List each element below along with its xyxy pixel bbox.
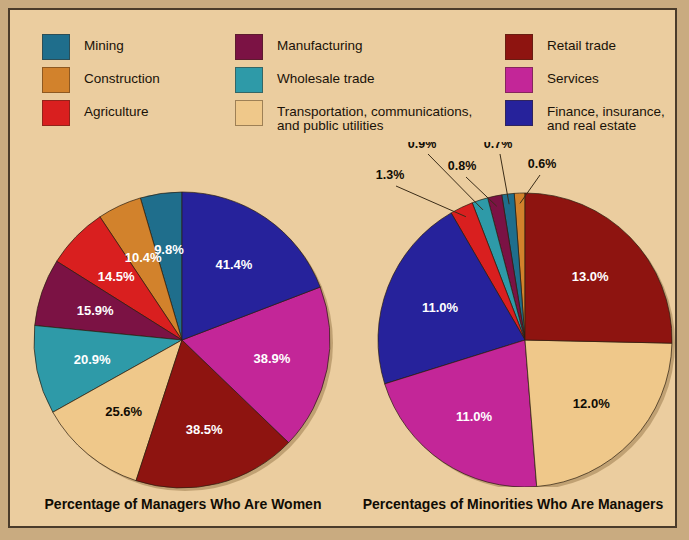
pie-slice-label: 41.4% <box>216 257 253 272</box>
chart-panel: MiningConstructionAgricultureManufacturi… <box>8 8 677 528</box>
chart-title-women: Percentage of Managers Who Are Women <box>18 496 348 512</box>
pie-slice-label: 11.0% <box>456 409 493 424</box>
pie-callout-label: 0.9% <box>408 142 437 151</box>
pie-callout-label: 1.3% <box>376 168 405 182</box>
pie-slice-label: 38.9% <box>253 351 290 366</box>
pie-slice <box>525 340 672 487</box>
pie-chart-minorities: 11.0%11.0%12.0%13.0%0.6%0.7%0.8%0.9%1.3% <box>350 142 689 487</box>
pie-callout-label: 0.6% <box>528 157 557 171</box>
pie-slice-label: 38.5% <box>186 422 223 437</box>
pie-slice-label: 25.6% <box>105 404 142 419</box>
pie-slice-label: 13.0% <box>572 269 609 284</box>
pie-chart-women: 9.8%10.4%14.5%15.9%20.9%25.6%38.5%38.9%4… <box>12 180 352 510</box>
pie-slice-label: 10.4% <box>125 250 162 265</box>
pie-slice-label: 11.0% <box>422 300 459 315</box>
chart-title-minorities: Percentages of Minorities Who Are Manage… <box>348 496 678 512</box>
pie-slice-label: 15.9% <box>77 303 114 318</box>
pie-slice-label: 20.9% <box>74 352 111 367</box>
pie-callout-label: 0.7% <box>484 142 513 151</box>
charts-area: 9.8%10.4%14.5%15.9%20.9%25.6%38.5%38.9%4… <box>10 10 675 526</box>
pie-slice-label: 14.5% <box>98 269 135 284</box>
pie-slice-label: 12.0% <box>573 396 610 411</box>
pie-slice <box>525 193 672 343</box>
pie-callout-label: 0.8% <box>448 159 477 173</box>
callout-leader-line <box>396 186 466 217</box>
